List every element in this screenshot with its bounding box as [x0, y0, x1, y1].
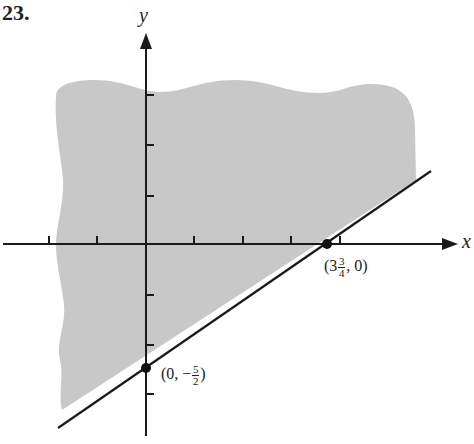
- x-intercept-label: (334, 0): [324, 256, 368, 279]
- graph: [0, 0, 474, 444]
- fraction: 34: [338, 256, 345, 279]
- y-axis-arrow-icon: [140, 33, 152, 49]
- x-axis-arrow-icon: [442, 238, 458, 250]
- x-intercept-point: [322, 239, 332, 249]
- problem-number: 23.: [2, 0, 30, 26]
- y-intercept-point: [141, 363, 151, 373]
- fraction: 52: [192, 364, 199, 387]
- y-axis-label: y: [139, 4, 148, 27]
- y-intercept-label: (0, −52): [161, 364, 206, 387]
- x-axis-label: x: [462, 230, 471, 253]
